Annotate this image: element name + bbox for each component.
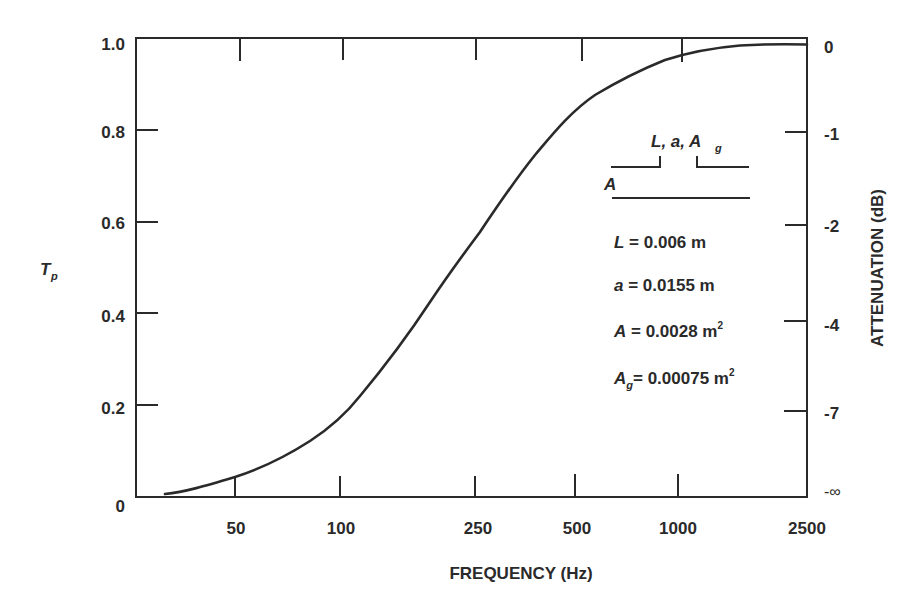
y-left-label-0.2: 0.2 [101, 399, 125, 418]
x-axis-title: FREQUENCY (Hz) [449, 564, 592, 583]
y-right-label-neg-infinity: -∞ [824, 483, 841, 500]
parameter-list: L = 0.006 m a = 0.0155 m A = 0.0028 m2 A… [613, 233, 735, 391]
x-ticks-bottom [235, 474, 678, 497]
y-left-label-0.4: 0.4 [101, 307, 125, 326]
y-right-label-0: 0 [824, 38, 833, 57]
y-right-label-minus1: -1 [824, 125, 839, 144]
chart-canvas: 1.0 0.8 0.6 0.4 0.2 0 T p 0 -1 -2 -4 -7 … [0, 0, 920, 601]
plot-frame [136, 38, 807, 497]
y-ticks-left [136, 130, 158, 405]
x-label-250: 250 [464, 519, 492, 538]
tube-diagram [611, 156, 750, 198]
x-label-100: 100 [327, 519, 355, 538]
x-ticks-top [240, 38, 682, 62]
y-left-label-0: 0 [116, 497, 125, 516]
y-left-axis-subscript: p [50, 270, 58, 282]
diagram-label-top: L, a, A [651, 132, 701, 151]
param-Ag: Ag= 0.00075 m2 [613, 367, 735, 391]
y-ticks-right [784, 132, 807, 411]
param-L: L = 0.006 m [614, 233, 706, 252]
y-right-axis-title: ATTENUATION (dB) [868, 189, 887, 347]
diagram-label-top-sub: g [714, 142, 722, 154]
x-label-500: 500 [563, 519, 591, 538]
diagram-label-left: A [603, 175, 616, 194]
y-left-label-0.6: 0.6 [101, 214, 125, 233]
y-left-label-1.0: 1.0 [101, 35, 125, 54]
y-right-label-minus7: -7 [824, 404, 839, 423]
x-label-2500: 2500 [788, 519, 826, 538]
param-a: a = 0.0155 m [614, 276, 715, 295]
y-left-label-0.8: 0.8 [101, 123, 125, 142]
x-label-50: 50 [227, 519, 246, 538]
y-right-label-minus4: -4 [824, 316, 840, 335]
y-right-label-minus2: -2 [824, 217, 839, 236]
param-A: A = 0.0028 m2 [613, 320, 724, 341]
x-label-1000: 1000 [659, 519, 697, 538]
tp-curve [165, 44, 807, 494]
